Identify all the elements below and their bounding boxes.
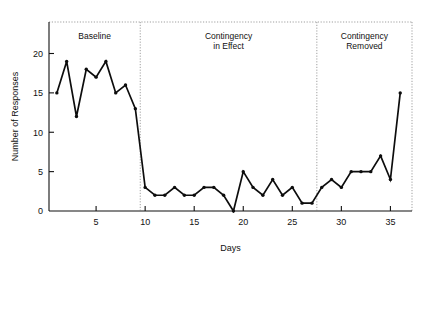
data-point bbox=[242, 170, 245, 173]
data-point bbox=[183, 194, 186, 197]
data-point bbox=[310, 201, 313, 204]
data-point bbox=[281, 194, 284, 197]
data-point bbox=[153, 194, 156, 197]
data-point bbox=[261, 194, 264, 197]
data-point bbox=[65, 60, 68, 63]
data-point bbox=[300, 201, 303, 204]
data-point bbox=[379, 154, 382, 157]
data-point bbox=[222, 194, 225, 197]
data-point bbox=[143, 186, 146, 189]
data-point bbox=[193, 194, 196, 197]
data-point bbox=[104, 60, 107, 63]
data-point bbox=[94, 75, 97, 78]
phase-label-2-line2: in Effect bbox=[213, 41, 244, 51]
y-tick-label-15: 15 bbox=[33, 88, 43, 98]
y-axis-title: Number of Responses bbox=[10, 71, 20, 161]
y-tick-label-20: 20 bbox=[33, 49, 43, 59]
phase-label-1-line1: Baseline bbox=[78, 31, 111, 41]
x-tick-label-30: 30 bbox=[336, 217, 346, 227]
x-tick-label-10: 10 bbox=[140, 217, 150, 227]
data-point bbox=[85, 68, 88, 71]
x-tick-label-20: 20 bbox=[238, 217, 248, 227]
x-tick-label-5: 5 bbox=[94, 217, 99, 227]
data-point bbox=[349, 170, 352, 173]
x-tick-label-25: 25 bbox=[287, 217, 297, 227]
data-point bbox=[134, 107, 137, 110]
data-point bbox=[251, 186, 254, 189]
y-tick-label-0: 0 bbox=[38, 206, 43, 216]
data-point bbox=[399, 91, 402, 94]
data-point bbox=[232, 209, 235, 212]
data-point bbox=[340, 186, 343, 189]
x-axis-title: Days bbox=[220, 243, 241, 253]
chart-figure: 510152051015202530350BaselineContingency… bbox=[0, 0, 434, 315]
x-tick-label-35: 35 bbox=[385, 217, 395, 227]
x-tick-label-15: 15 bbox=[189, 217, 199, 227]
response-line-chart: 510152051015202530350BaselineContingency… bbox=[0, 0, 434, 315]
data-point bbox=[212, 186, 215, 189]
phase-label-3-line2: Removed bbox=[346, 41, 383, 51]
data-point bbox=[271, 178, 274, 181]
data-point bbox=[291, 186, 294, 189]
data-point bbox=[369, 170, 372, 173]
data-point bbox=[124, 83, 127, 86]
y-tick-label-5: 5 bbox=[38, 167, 43, 177]
data-point bbox=[330, 178, 333, 181]
data-point bbox=[55, 91, 58, 94]
data-point bbox=[320, 186, 323, 189]
y-tick-label-10: 10 bbox=[33, 128, 43, 138]
data-point bbox=[389, 178, 392, 181]
phase-label-3-line1: Contingency bbox=[341, 31, 389, 41]
data-point bbox=[202, 186, 205, 189]
data-point bbox=[75, 115, 78, 118]
data-point bbox=[114, 91, 117, 94]
series-line-responses bbox=[57, 61, 400, 211]
data-point bbox=[359, 170, 362, 173]
phase-label-2-line1: Contingency bbox=[205, 31, 253, 41]
data-point bbox=[163, 194, 166, 197]
data-point bbox=[173, 186, 176, 189]
